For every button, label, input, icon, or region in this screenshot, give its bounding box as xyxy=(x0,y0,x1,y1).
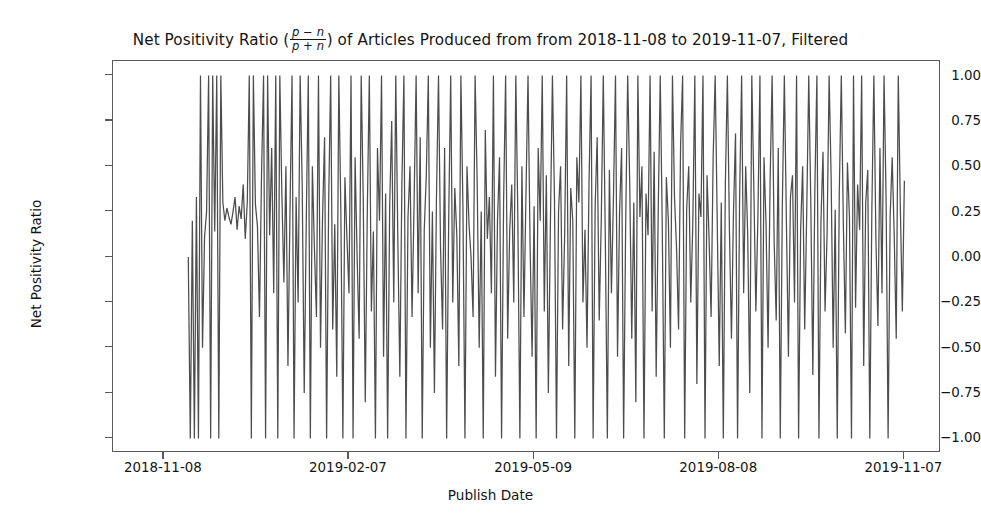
chart-title: Net Positivity Ratio (p − np + n) of Art… xyxy=(0,26,981,52)
x-tick-label: 2019-02-07 xyxy=(309,460,387,475)
x-tick-mark xyxy=(347,452,348,459)
chart-title-prefix: Net Positivity Ratio ( xyxy=(133,31,290,49)
y-tick-mark xyxy=(105,256,112,257)
x-tick-mark xyxy=(162,452,163,459)
y-tick-mark xyxy=(105,346,112,347)
y-tick-mark xyxy=(105,119,112,120)
x-tick-label: 2018-11-08 xyxy=(124,460,202,475)
series-line-net-positivity-ratio xyxy=(188,76,904,439)
series-canvas xyxy=(113,61,940,452)
y-tick-mark xyxy=(105,437,112,438)
plot-area xyxy=(112,60,940,452)
y-tick-mark xyxy=(105,210,112,211)
fraction-numerator: p − n xyxy=(290,26,326,39)
y-tick-mark xyxy=(105,165,112,166)
x-tick-mark xyxy=(533,452,534,459)
fraction-denominator: p + n xyxy=(290,39,326,53)
chart-title-suffix: ) of Articles Produced from from 2018-11… xyxy=(327,31,849,49)
x-axis-label: Publish Date xyxy=(0,487,981,503)
x-tick-label: 2019-08-08 xyxy=(679,460,757,475)
x-tick-label: 2019-11-07 xyxy=(864,460,942,475)
x-tick-mark xyxy=(718,452,719,459)
x-tick-mark xyxy=(903,452,904,459)
y-tick-mark xyxy=(105,392,112,393)
chart-title-fraction: p − np + n xyxy=(290,26,326,52)
chart-figure: Net Positivity Ratio (p − np + n) of Art… xyxy=(0,0,981,531)
y-tick-mark xyxy=(105,301,112,302)
y-axis-label: Net Positivity Ratio xyxy=(28,164,44,364)
x-tick-label: 2019-05-09 xyxy=(494,460,572,475)
y-tick-mark xyxy=(105,74,112,75)
